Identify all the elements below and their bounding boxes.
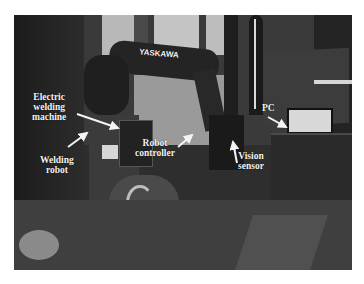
label-pc: PC: [262, 103, 275, 113]
label-robot-controller: Robot controller: [135, 138, 175, 158]
arrow-pc: [268, 117, 286, 127]
label-welding-robot: Welding robot: [40, 155, 74, 175]
label-vision-sensor: Vision sensor: [238, 151, 264, 171]
annotation-arrows: [14, 15, 352, 270]
platform-photo: YASKAWA Electric welding machine Welding…: [14, 15, 352, 270]
arrow-robot-controller: [178, 135, 192, 147]
label-electric-welding-machine: Electric welding machine: [32, 92, 66, 122]
arrow-vision-sensor: [233, 142, 237, 163]
arrow-welding-robot: [68, 133, 87, 147]
arrow-electric-welding-machine: [77, 114, 118, 128]
